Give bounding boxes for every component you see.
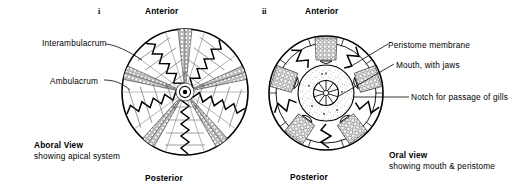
callout-notch-for-gills-label: Notch for passage of gills xyxy=(411,92,523,102)
apical-system xyxy=(176,83,194,101)
panel-i-posterior-label: Posterior xyxy=(145,173,183,183)
panel-number-ii: ii xyxy=(262,7,266,16)
leader-notch-for-gills xyxy=(352,90,410,102)
panel-ii-anterior-label: Anterior xyxy=(305,6,338,16)
leader-interambulacrum xyxy=(104,34,146,62)
callout-peristome-membrane-label: Peristome membrane xyxy=(388,40,470,50)
callout-mouth-with-jaws-label: Mouth, with jaws xyxy=(396,60,460,70)
panel-i-caption-title: Aboral View xyxy=(34,140,83,150)
callout-ambulacrum-label: Ambulacrum xyxy=(50,76,98,86)
panel-ii-caption-sub: showing mouth & peristome xyxy=(389,161,495,171)
panel-i-anterior-label: Anterior xyxy=(145,6,178,16)
panel-ii-posterior-label: Posterior xyxy=(290,172,328,182)
panel-i-caption-sub: showing apical system xyxy=(34,151,120,161)
figure-container: i Anterior Interambulacrum Ambulacrum Ab… xyxy=(0,0,531,193)
panel-number-i: i xyxy=(98,7,100,16)
leader-ambulacrum xyxy=(104,70,136,94)
panel-ii-caption-title: Oral view xyxy=(389,150,427,160)
callout-interambulacrum-label: Interambulacrum xyxy=(42,38,107,48)
mouth-with-jaws xyxy=(314,81,339,106)
